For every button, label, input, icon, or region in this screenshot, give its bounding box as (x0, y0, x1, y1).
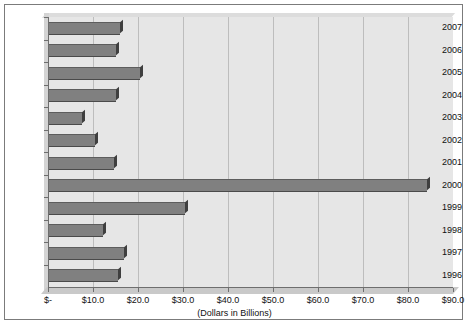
y-axis-tick (44, 265, 48, 266)
y-axis-tick (44, 85, 48, 86)
gridline (318, 17, 319, 287)
bar (48, 269, 118, 282)
y-axis-tick (44, 130, 48, 131)
bar (48, 67, 140, 80)
x-axis-tick-label: $50.0 (262, 295, 285, 305)
y-axis-tick (44, 152, 48, 153)
x-axis-tick-label: $10.0 (82, 295, 105, 305)
bar (48, 224, 103, 237)
gridline (363, 17, 364, 287)
bar (48, 157, 114, 170)
bar (48, 22, 120, 35)
gridline (183, 17, 184, 287)
gridline (408, 17, 409, 287)
x-axis-tick-label: $60.0 (307, 295, 330, 305)
y-axis-tick-label: 2002 (424, 136, 462, 145)
plot-floor-bevel (41, 287, 459, 294)
x-axis-tick (318, 288, 319, 292)
y-axis-tick (44, 17, 48, 18)
y-axis-tick-label: 1997 (424, 248, 462, 257)
x-axis-tick (408, 288, 409, 292)
plot-area (48, 17, 453, 287)
x-axis-tick (273, 288, 274, 292)
x-axis-tick (48, 288, 49, 292)
bar (48, 112, 82, 125)
y-axis-tick (44, 107, 48, 108)
y-axis-tick-label: 2006 (424, 46, 462, 55)
y-axis-tick (44, 175, 48, 176)
y-axis-tick-label: 1999 (424, 203, 462, 212)
y-axis-tick-label: 2003 (424, 113, 462, 122)
y-axis-tick (44, 40, 48, 41)
y-axis-line (48, 17, 49, 288)
x-axis-tick (363, 288, 364, 292)
chart-frame: 2007200620052004200320022001200019991998… (4, 4, 463, 320)
x-axis-tick (183, 288, 184, 292)
x-axis-tick (93, 288, 94, 292)
x-axis-tick (453, 288, 454, 292)
bar (48, 44, 116, 57)
bar (48, 179, 427, 192)
y-axis-tick (44, 62, 48, 63)
y-axis-tick (44, 220, 48, 221)
y-axis-tick-label: 2004 (424, 91, 462, 100)
y-axis-tick (44, 197, 48, 198)
gridline (228, 17, 229, 287)
x-axis-line (48, 287, 453, 288)
y-axis-tick-label: 1996 (424, 271, 462, 280)
x-axis-tick-label: $40.0 (217, 295, 240, 305)
x-axis-caption: (Dollars in Billions) (5, 308, 464, 318)
x-axis-tick-label: $20.0 (127, 295, 150, 305)
bar (48, 247, 124, 260)
y-axis-tick-label: 2001 (424, 158, 462, 167)
bar-chart: 2007200620052004200320022001200019991998… (0, 0, 467, 328)
y-axis-tick-label: 2007 (424, 23, 462, 32)
x-axis-tick-label: $70.0 (352, 295, 375, 305)
y-axis-tick (44, 242, 48, 243)
bar (48, 202, 185, 215)
y-axis-tick-label: 2000 (424, 181, 462, 190)
bar (48, 89, 116, 102)
x-axis-tick-label: $- (44, 295, 52, 305)
y-axis-tick-label: 2005 (424, 68, 462, 77)
bar (48, 134, 95, 147)
gridline (273, 17, 274, 287)
x-axis-tick-label: $30.0 (172, 295, 195, 305)
x-axis-tick-label: $90.0 (442, 295, 465, 305)
x-axis-tick (138, 288, 139, 292)
x-axis-tick-label: $80.0 (397, 295, 420, 305)
y-axis-tick-label: 1998 (424, 226, 462, 235)
gridline (138, 17, 139, 287)
x-axis-tick (228, 288, 229, 292)
